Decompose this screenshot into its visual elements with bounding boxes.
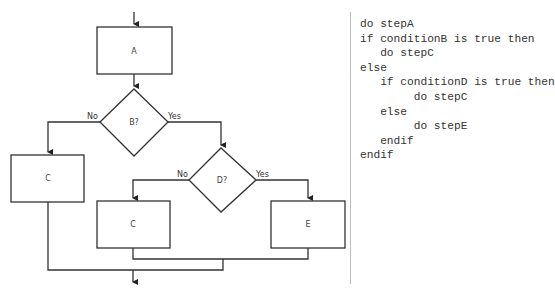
arrow-d-no (133, 180, 189, 198)
node-label-a: A (131, 47, 137, 56)
edge-label-d-yes: Yes (255, 170, 269, 179)
code-line: do stepA (360, 17, 555, 32)
edge-label-b-no: No (87, 112, 98, 121)
merge-line-inner (133, 248, 308, 259)
edge-label-d-no: No (177, 170, 188, 179)
code-line: do stepC (360, 90, 555, 105)
code-line: if conditionB is true then (360, 32, 555, 47)
arrow-b-yes (168, 122, 221, 145)
code-line: else (360, 61, 555, 76)
node-label-c-mid: C (130, 220, 136, 229)
divider (350, 12, 351, 284)
pseudocode-block: do stepAif conditionB is true then do st… (360, 17, 555, 163)
node-label-d: D? (217, 176, 227, 185)
node-label-c-left: C (45, 174, 51, 183)
code-line: endif (360, 148, 555, 163)
arrow-d-yes (256, 180, 308, 198)
flowchart: A B? C D? C E No Yes No Yes (0, 0, 347, 296)
node-label-b: B? (129, 118, 139, 127)
edge-label-b-yes: Yes (167, 112, 181, 121)
code-line: if conditionD is true then (360, 75, 555, 90)
node-label-e: E (305, 220, 310, 229)
code-line: endif (360, 134, 555, 149)
code-line: else (360, 105, 555, 120)
code-line: do stepE (360, 119, 555, 134)
arrow-b-no (48, 122, 100, 152)
code-line: do stepC (360, 46, 555, 61)
